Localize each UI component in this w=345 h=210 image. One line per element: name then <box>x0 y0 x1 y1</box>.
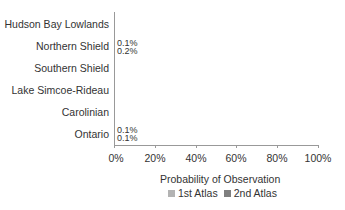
x-tick <box>114 145 115 148</box>
legend-label-1st-atlas: 1st Atlas <box>178 187 218 199</box>
x-tick-label: 20% <box>144 152 165 164</box>
category-label-northern-shield: Northern Shield <box>36 40 109 52</box>
x-tick-label: 80% <box>266 152 287 164</box>
category-label-hudson-bay-lowlands: Hudson Bay Lowlands <box>5 18 109 30</box>
value-label-northern-shield-2nd: 0.2% <box>117 47 138 55</box>
x-tick <box>236 145 237 148</box>
value-label-ontario-2nd: 0.1% <box>117 134 138 142</box>
category-label-southern-shield: Southern Shield <box>34 62 109 74</box>
x-tick <box>277 145 278 148</box>
x-axis-title: Probability of Observation <box>160 173 280 185</box>
x-tick-label: 40% <box>185 152 206 164</box>
x-axis <box>114 145 319 146</box>
category-label-lake-simcoe-rideau: Lake Simcoe-Rideau <box>12 84 109 96</box>
x-tick-label: 0% <box>108 152 123 164</box>
legend-swatch-2nd-atlas <box>224 190 231 197</box>
x-tick <box>155 145 156 148</box>
x-tick-label: 100% <box>305 152 332 164</box>
y-axis <box>114 12 115 146</box>
bar-chart: Hudson Bay Lowlands Northern Shield Sout… <box>0 0 345 210</box>
x-tick-label: 60% <box>225 152 246 164</box>
x-tick <box>196 145 197 148</box>
legend: 1st Atlas 2nd Atlas <box>168 187 277 199</box>
x-tick <box>318 145 319 148</box>
legend-label-2nd-atlas: 2nd Atlas <box>234 187 277 199</box>
category-label-ontario: Ontario <box>75 128 109 140</box>
category-label-carolinian: Carolinian <box>62 106 109 118</box>
legend-swatch-1st-atlas <box>168 190 175 197</box>
